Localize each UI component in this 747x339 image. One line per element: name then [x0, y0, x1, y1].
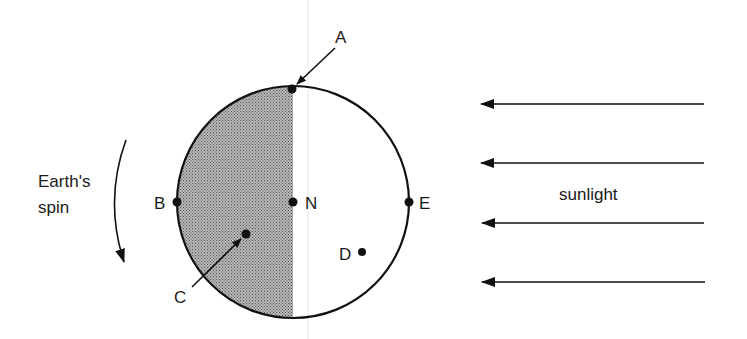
label-earths-spin-line1: Earth's	[38, 172, 90, 191]
label-sunlight: sunlight	[559, 185, 618, 204]
night-side-shading	[177, 86, 293, 318]
pointer-arrow-a	[297, 48, 335, 84]
label-b: B	[154, 194, 165, 213]
point-a	[288, 85, 297, 94]
point-d	[358, 248, 366, 256]
point-c	[242, 230, 251, 239]
label-a: A	[335, 28, 347, 47]
point-e	[405, 198, 414, 207]
label-d: D	[339, 245, 351, 264]
spin-direction-arrow	[114, 140, 126, 262]
point-n-north-pole	[289, 198, 298, 207]
earth-sunlight-diagram: A B N E C D Earth's spin sunlight	[0, 0, 747, 339]
label-c: C	[174, 288, 186, 307]
label-n: N	[305, 194, 317, 213]
point-b	[173, 198, 182, 207]
label-earths-spin-line2: spin	[38, 198, 69, 217]
label-e: E	[419, 194, 430, 213]
